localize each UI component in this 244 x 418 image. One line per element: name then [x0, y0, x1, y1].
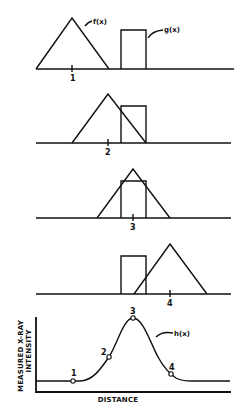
g-rectangle: [121, 256, 146, 294]
point-3-marker: [131, 316, 135, 320]
position-label-1: 1: [70, 74, 76, 83]
point-4-marker: [169, 372, 173, 376]
position-label-2: 2: [105, 148, 111, 157]
g-rectangle: [121, 30, 146, 69]
x-axis-label: DISTANCE: [98, 396, 139, 404]
f-label: f(x): [93, 18, 107, 26]
panel-1: 1 f(x) g(x): [36, 18, 234, 83]
position-label-3: 3: [130, 223, 136, 232]
point-2-label: 2: [101, 348, 107, 357]
point-1-label: 1: [71, 369, 77, 378]
f-triangle: [72, 94, 146, 143]
point-3-label: 3: [130, 307, 136, 316]
result-plot: MEASURED X-RAY INTENSITY DISTANCE h(x) 1…: [17, 307, 231, 404]
h-leader-line: [156, 333, 173, 338]
h-label: h(x): [174, 330, 190, 338]
y-axis-label-line2: INTENSITY: [25, 329, 33, 373]
g-leader-line: [148, 30, 163, 38]
point-1-marker: [71, 379, 75, 383]
f-leader-line: [85, 21, 92, 26]
convolution-diagram: 1 f(x) g(x) 2 3 4 MEASURED X-RAY INTENSI…: [0, 0, 244, 418]
y-axis-label-line1: MEASURED X-RAY: [17, 319, 25, 392]
panel-3: 3: [36, 169, 231, 232]
point-2-marker: [107, 355, 111, 359]
panel-2: 2: [36, 94, 231, 157]
point-4-label: 4: [169, 363, 175, 372]
g-rectangle: [121, 181, 146, 218]
h-curve: [36, 318, 230, 381]
position-label-4: 4: [167, 299, 173, 308]
panel-4: 4: [36, 244, 231, 308]
f-triangle: [97, 169, 170, 218]
g-label: g(x): [164, 26, 180, 34]
f-triangle: [134, 244, 207, 294]
